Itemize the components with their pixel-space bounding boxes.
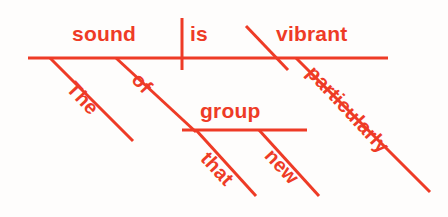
sentence-diagram: soundisvibrantgroupTheofthatnewparticula…: [0, 0, 448, 217]
diagram-line-preposition-slant: [116, 58, 196, 132]
diagram-word-complement: vibrant: [276, 23, 347, 44]
diagram-word-verb: is: [190, 23, 208, 44]
diagram-word-prep-object: group: [200, 100, 260, 121]
diagram-word-subject: sound: [72, 23, 136, 44]
